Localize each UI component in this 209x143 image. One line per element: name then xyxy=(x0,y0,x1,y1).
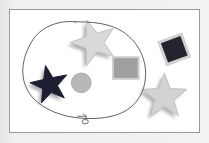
cursor-layer xyxy=(10,10,199,132)
drawing-canvas[interactable] xyxy=(10,10,199,132)
lasso-cursor xyxy=(77,114,88,124)
application-window xyxy=(0,0,209,143)
canvas-frame xyxy=(9,9,200,133)
lasso-cursor-loop-icon xyxy=(82,120,88,124)
